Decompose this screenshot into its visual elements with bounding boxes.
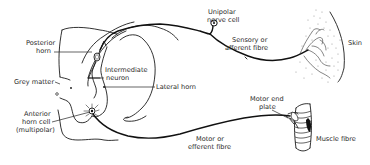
label-sensory-fibre: Sensory or afferent fibre bbox=[225, 36, 268, 52]
anterior-horn-cell bbox=[84, 104, 99, 116]
svg-text:Grey matter: Grey matter bbox=[14, 78, 54, 86]
svg-text:Skin: Skin bbox=[348, 39, 362, 47]
svg-text:nerve cell: nerve cell bbox=[207, 16, 240, 24]
svg-text:Sensory or: Sensory or bbox=[232, 36, 268, 44]
muscle-fibre bbox=[291, 104, 312, 151]
label-intermediate-neuron: Intermediate neuron bbox=[88, 66, 148, 82]
posterior-horn-cell bbox=[94, 53, 100, 61]
svg-text:Intermediate: Intermediate bbox=[105, 66, 148, 74]
svg-text:efferent fibre: efferent fibre bbox=[188, 143, 231, 151]
svg-text:plate: plate bbox=[259, 103, 276, 111]
svg-text:Anterior: Anterior bbox=[24, 110, 51, 118]
intermediate-neuron bbox=[88, 62, 100, 98]
svg-text:(multipolar): (multipolar) bbox=[16, 126, 55, 134]
svg-text:Motor or: Motor or bbox=[196, 135, 224, 143]
svg-text:Unipolar: Unipolar bbox=[208, 8, 236, 16]
svg-text:afferent fibre: afferent fibre bbox=[225, 44, 268, 52]
label-unipolar-nerve-cell: Unipolar nerve cell bbox=[207, 8, 240, 24]
svg-text:neuron: neuron bbox=[106, 74, 129, 82]
svg-text:Posterior: Posterior bbox=[26, 39, 55, 47]
label-lateral-horn: Lateral horn bbox=[70, 83, 196, 91]
reflex-arc-diagram: Posterior horn Grey matter Intermediate … bbox=[0, 0, 370, 165]
label-muscle-fibre: Muscle fibre bbox=[316, 135, 356, 143]
label-skin: Skin bbox=[348, 39, 362, 47]
label-motor-fibre: Motor or efferent fibre bbox=[188, 135, 231, 151]
label-grey-matter: Grey matter bbox=[14, 78, 60, 86]
svg-text:Lateral horn: Lateral horn bbox=[156, 83, 196, 91]
svg-text:horn cell: horn cell bbox=[22, 118, 51, 126]
svg-text:horn: horn bbox=[36, 47, 51, 55]
svg-text:Muscle fibre: Muscle fibre bbox=[316, 135, 356, 143]
svg-text:Motor end: Motor end bbox=[250, 95, 284, 103]
